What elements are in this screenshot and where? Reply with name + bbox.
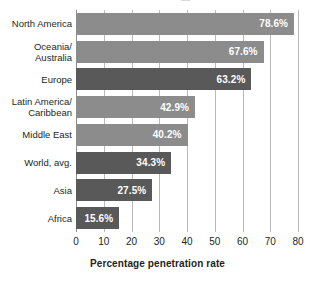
bar: 27.5% bbox=[76, 179, 152, 201]
tick-label-30: 30 bbox=[154, 236, 165, 247]
bar-row: 63.2% bbox=[76, 68, 298, 90]
bar-value-label: 34.3% bbox=[136, 157, 171, 168]
category-label: World, avg. bbox=[0, 157, 72, 168]
gridline-80 bbox=[298, 10, 299, 232]
bar-value-label: 27.5% bbox=[117, 185, 152, 196]
bar: 67.6% bbox=[76, 41, 264, 63]
bar-value-label: 40.2% bbox=[153, 129, 188, 140]
bar-row: 34.3% bbox=[76, 152, 298, 174]
cropped-title-sliver: — bbox=[181, 0, 311, 4]
bar: 34.3% bbox=[76, 152, 171, 174]
bar-value-label: 42.9% bbox=[160, 102, 195, 113]
tick-label-80: 80 bbox=[292, 236, 303, 247]
bar-row: 40.2% bbox=[76, 124, 298, 146]
category-label: Middle East bbox=[0, 129, 72, 140]
category-axis-labels: North AmericaOceania/ AustraliaEuropeLat… bbox=[0, 10, 72, 232]
bar: 63.2% bbox=[76, 68, 251, 90]
bar-row: 78.6% bbox=[76, 13, 298, 35]
bar: 78.6% bbox=[76, 13, 294, 35]
tick-label-70: 70 bbox=[265, 236, 276, 247]
category-label: North America bbox=[0, 18, 72, 29]
category-label: Africa bbox=[0, 213, 72, 224]
tick-label-10: 10 bbox=[98, 236, 109, 247]
bar-value-label: 67.6% bbox=[229, 46, 264, 57]
x-axis-tick-labels: 01020304050607080 bbox=[76, 236, 298, 250]
bar-value-label: 63.2% bbox=[217, 74, 252, 85]
plot-area: 78.6%67.6%63.2%42.9%40.2%34.3%27.5%15.6% bbox=[76, 10, 298, 232]
tick-label-50: 50 bbox=[209, 236, 220, 247]
bar: 42.9% bbox=[76, 96, 195, 118]
bar-value-label: 78.6% bbox=[259, 18, 294, 29]
bar-row: 42.9% bbox=[76, 96, 298, 118]
bar-chart: — 78.6%67.6%63.2%42.9%40.2%34.3%27.5%15.… bbox=[0, 0, 315, 282]
category-label: Latin America/ Caribbean bbox=[0, 96, 72, 118]
bar-row: 67.6% bbox=[76, 41, 298, 63]
bar: 40.2% bbox=[76, 124, 188, 146]
x-axis-title: Percentage penetration rate bbox=[0, 258, 315, 269]
category-label: Europe bbox=[0, 74, 72, 85]
bars-container: 78.6%67.6%63.2%42.9%40.2%34.3%27.5%15.6% bbox=[76, 10, 298, 232]
bar: 15.6% bbox=[76, 207, 119, 229]
category-label: Oceania/ Australia bbox=[0, 41, 72, 63]
tick-label-60: 60 bbox=[237, 236, 248, 247]
tick-label-0: 0 bbox=[73, 236, 79, 247]
tick-label-20: 20 bbox=[126, 236, 137, 247]
tick-label-40: 40 bbox=[181, 236, 192, 247]
bar-row: 15.6% bbox=[76, 207, 298, 229]
bar-value-label: 15.6% bbox=[84, 213, 119, 224]
category-label: Asia bbox=[0, 185, 72, 196]
bar-row: 27.5% bbox=[76, 179, 298, 201]
